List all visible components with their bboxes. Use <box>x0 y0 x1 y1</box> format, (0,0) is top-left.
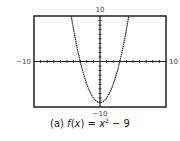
figure-caption: (a) f(x) = x2 − 9 <box>0 117 180 129</box>
xmax-label: 10 <box>169 58 178 66</box>
caption-rest: − 9 <box>109 118 130 129</box>
caption-prefix: (a) <box>50 118 67 129</box>
ymax-label: 10 <box>96 6 105 14</box>
xmin-label: −10 <box>16 58 31 66</box>
caption-equals: = <box>84 118 99 129</box>
